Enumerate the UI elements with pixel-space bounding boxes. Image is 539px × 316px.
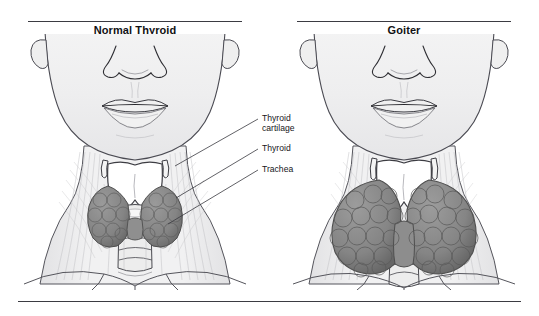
callout-line-2: cartilage: [262, 124, 294, 134]
panel-top-rule: [297, 21, 511, 22]
goiter-illustration: [269, 34, 539, 290]
superior-horn-left: [370, 158, 377, 180]
callout-line-1: Trachea: [262, 165, 293, 175]
superior-horn-right: [431, 158, 438, 180]
normal-thyroid-illustration: [0, 34, 270, 290]
thyroid-comparison-figure: Normal Thyroid: [0, 0, 539, 316]
callout-thyroid-cartilage: Thyroid cartilage: [262, 114, 294, 133]
figure-bottom-rule: [18, 301, 521, 302]
ear-left: [31, 40, 48, 69]
panel-normal-thyroid: Normal Thyroid: [0, 0, 270, 316]
ear-right: [222, 40, 239, 69]
callout-trachea: Trachea: [262, 165, 293, 175]
callout-line-1: Thyroid: [262, 144, 291, 154]
panel-goiter: Goiter: [269, 0, 539, 316]
superior-horn-left: [101, 160, 108, 178]
callout-thyroid: Thyroid: [262, 144, 291, 154]
panel-top-rule: [28, 21, 242, 22]
face-jaw: [313, 34, 495, 160]
thyroid-isthmus: [127, 218, 143, 240]
ear-left: [300, 40, 317, 69]
superior-horn-right: [162, 160, 169, 178]
face-jaw: [44, 34, 226, 160]
ear-right: [491, 40, 508, 69]
